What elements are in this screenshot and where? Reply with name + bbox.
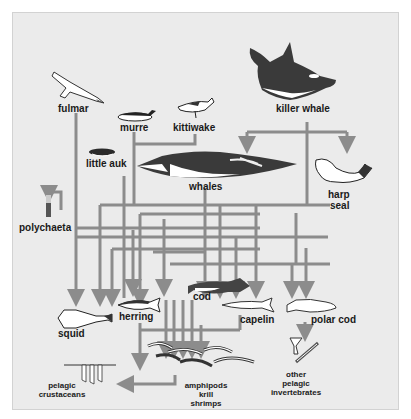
capelin-icon <box>222 298 274 312</box>
label-krill: krill <box>199 390 213 399</box>
label-herring: herring <box>119 311 153 322</box>
label-harp-seal-2: seal <box>330 200 350 211</box>
label-other-2: pelagic <box>282 379 310 388</box>
polar-cod-icon <box>287 299 336 312</box>
label-kittiwake: kittiwake <box>173 122 216 133</box>
polychaeta-icon <box>46 195 51 217</box>
label-other-1: other <box>286 370 306 379</box>
label-murre: murre <box>120 122 149 133</box>
label-pelagic-crustaceans-1: pelagic <box>48 381 76 390</box>
label-polychaeta: polychaeta <box>19 222 72 233</box>
label-killer-whale: killer whale <box>276 103 330 114</box>
other-invertebrates-icon <box>290 338 318 362</box>
fulmar-icon <box>52 72 104 103</box>
label-shrimps: shrimps <box>190 399 222 408</box>
kittiwake-icon <box>178 98 214 118</box>
killer-whale-icon <box>250 42 336 100</box>
food-web-diagram: fulmar murre kittiwake killer whale litt… <box>0 0 411 419</box>
label-pelagic-crustaceans-2: crustaceans <box>39 390 86 399</box>
label-squid: squid <box>58 328 85 339</box>
label-cod: cod <box>193 291 211 302</box>
herring-icon <box>118 298 160 312</box>
label-whales: whales <box>188 181 223 192</box>
label-harp-seal-1: harp <box>328 189 350 200</box>
murre-icon <box>118 110 156 121</box>
label-fulmar: fulmar <box>58 103 89 114</box>
squid-icon <box>58 310 112 328</box>
label-little-auk: little auk <box>86 158 127 169</box>
harp-seal-icon <box>316 159 373 183</box>
label-capelin: capelin <box>240 314 274 325</box>
label-amphipods: amphipods <box>185 381 228 390</box>
whale-icon <box>137 152 297 179</box>
label-polar-cod: polar cod <box>311 314 356 325</box>
label-other-3: invertebrates <box>271 388 322 397</box>
little-auk-icon <box>89 149 115 157</box>
